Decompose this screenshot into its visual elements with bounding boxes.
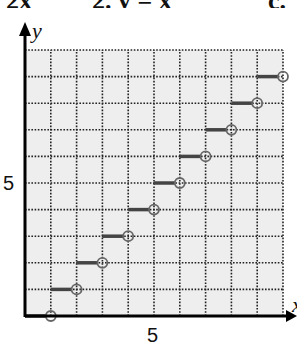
x-tick-label-5: 5 [147, 324, 158, 347]
y-tick-label-5: 5 [3, 172, 14, 195]
x-axis-label: x [292, 292, 297, 318]
y-axis-arrow-icon [19, 22, 31, 36]
y-axis-label: y [32, 18, 42, 44]
step-function-plot [0, 0, 297, 360]
